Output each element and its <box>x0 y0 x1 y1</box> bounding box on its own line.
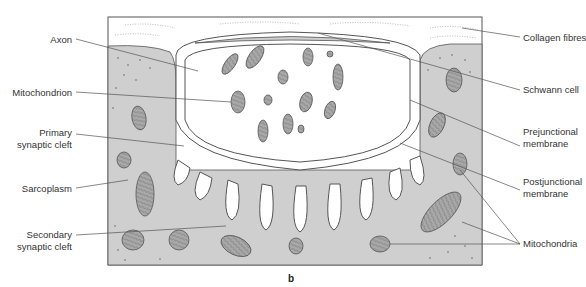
label-schwann-cell: Schwann cell <box>523 84 579 96</box>
label-mitochondrion-line1: Mitochondrion <box>12 87 72 98</box>
label-postjunctional-line1: Postjunctional <box>523 176 582 188</box>
label-postjunctional-line2: membrane <box>523 188 582 200</box>
label-secondary-synaptic-cleft: Secondary synaptic cleft <box>17 229 72 253</box>
label-collagen-fibres: Collagen fibres <box>523 32 586 44</box>
label-sarcoplasm: Sarcoplasm <box>22 183 72 195</box>
label-mitochondria-line1: Mitochondria <box>523 238 577 249</box>
label-axon: Axon <box>50 34 72 46</box>
label-prejunctional-line1: Prejunctional <box>523 126 578 138</box>
label-prejunctional-membrane: Prejunctional membrane <box>523 126 578 150</box>
label-postjunctional-membrane: Postjunctional membrane <box>523 176 582 200</box>
axon-terminal <box>185 44 410 162</box>
label-secondary-line2: synaptic cleft <box>17 241 72 253</box>
label-collagen-line1: Collagen fibres <box>523 32 586 43</box>
label-prejunctional-line2: membrane <box>523 138 578 150</box>
label-primary-synaptic-cleft: Primary synaptic cleft <box>17 127 72 151</box>
label-primary-line2: synaptic cleft <box>17 139 72 151</box>
label-schwann-line1: Schwann cell <box>523 84 579 95</box>
label-mitochondrion: Mitochondrion <box>12 87 72 99</box>
label-secondary-line1: Secondary <box>17 229 72 241</box>
label-axon-line1: Axon <box>50 34 72 45</box>
label-sarcoplasm-line1: Sarcoplasm <box>22 183 72 194</box>
figure-caption: b <box>288 273 294 284</box>
label-mitochondria: Mitochondria <box>523 238 577 250</box>
label-primary-line1: Primary <box>17 127 72 139</box>
